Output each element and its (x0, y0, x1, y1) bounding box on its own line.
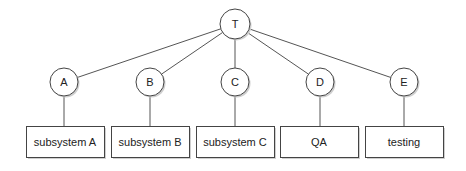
node-T: T (220, 9, 252, 41)
box-D: QA (281, 127, 361, 160)
box-label: QA (311, 136, 328, 148)
box-label: subsystem C (203, 136, 267, 148)
node-A: A (50, 68, 80, 98)
node-label: C (231, 76, 239, 88)
nodes: TAsubsystem ABsubsystem BCsubsystem CDQA… (27, 9, 446, 159)
node-label: T (232, 18, 239, 30)
node-B: B (136, 68, 166, 98)
node-label: B (146, 76, 153, 88)
box-label: subsystem B (119, 136, 182, 148)
box-C: subsystem C (197, 127, 277, 160)
box-E: testing (366, 127, 446, 160)
box-B: subsystem B (112, 127, 192, 160)
box-A: subsystem A (27, 127, 107, 160)
box-label: testing (388, 136, 420, 148)
box-label: subsystem A (34, 136, 97, 148)
node-label: D (316, 76, 324, 88)
tree-diagram: TAsubsystem ABsubsystem BCsubsystem CDQA… (0, 0, 466, 171)
node-label: E (400, 76, 407, 88)
node-D: D (306, 68, 336, 98)
node-E: E (390, 68, 420, 98)
node-label: A (60, 76, 68, 88)
node-C: C (221, 68, 251, 98)
